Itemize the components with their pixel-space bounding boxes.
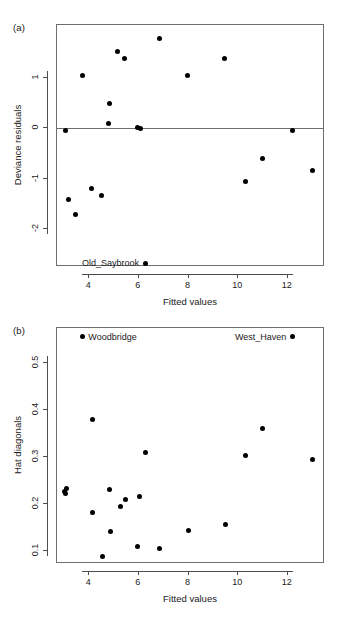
data-point — [66, 197, 71, 202]
data-point — [143, 261, 148, 266]
panel-b-y-axis-title: Hat diagonals — [12, 416, 23, 474]
data-point — [106, 121, 111, 126]
y-axis-tick-label: 0.1 — [30, 544, 40, 557]
data-point — [243, 453, 248, 458]
x-axis-tick — [138, 274, 139, 278]
y-axis-tick — [43, 178, 47, 179]
x-axis-tick-label: 4 — [86, 577, 91, 587]
x-axis-tick — [237, 571, 238, 575]
x-axis-tick-label: 6 — [135, 280, 140, 290]
data-point — [107, 101, 112, 106]
panel-b-plot-area: WoodbridgeWest_Haven — [57, 328, 323, 562]
y-axis-tick — [43, 503, 47, 504]
panel-a-plot-box: Old_Saybrook — [56, 24, 324, 266]
x-axis-tick-label: 10 — [232, 577, 242, 587]
panel-a-tag: (a) — [13, 22, 25, 33]
data-point — [138, 126, 143, 131]
data-point — [64, 486, 69, 491]
panel-a-y-axis — [47, 71, 48, 234]
panel-a-plot-area: Old_Saybrook — [57, 25, 323, 265]
data-point — [222, 56, 227, 61]
data-point — [63, 128, 68, 133]
data-point — [157, 546, 162, 551]
data-point — [122, 56, 127, 61]
x-axis-tick — [237, 274, 238, 278]
data-point — [90, 417, 95, 422]
data-point — [260, 426, 265, 431]
data-point — [143, 450, 148, 455]
y-axis-tick-label: 0.2 — [30, 497, 40, 510]
data-point — [135, 544, 140, 549]
y-axis-tick-label: 0.5 — [30, 356, 40, 369]
data-point — [185, 73, 190, 78]
panel-b-y-axis — [47, 356, 48, 556]
x-axis-tick — [188, 571, 189, 575]
x-axis-tick-label: 12 — [282, 280, 292, 290]
y-axis-tick-label: -2 — [30, 224, 40, 232]
data-point — [73, 212, 78, 217]
y-axis-tick-label: 0 — [30, 125, 40, 130]
data-point — [80, 73, 85, 78]
data-point — [100, 554, 105, 559]
panel-b-plot-box: WoodbridgeWest_Haven — [56, 327, 324, 563]
x-axis-tick — [138, 571, 139, 575]
data-point — [80, 334, 85, 339]
y-axis-tick-label: -1 — [30, 174, 40, 182]
panel-b-hat-diagonals: (b) WoodbridgeWest_Haven Fitted values H… — [0, 311, 340, 622]
data-point — [90, 510, 95, 515]
data-point — [108, 529, 113, 534]
data-point — [118, 504, 123, 509]
data-point — [310, 168, 315, 173]
y-axis-tick — [43, 409, 47, 410]
data-point — [157, 36, 162, 41]
data-point — [123, 497, 128, 502]
panel-a-x-axis-title: Fitted values — [163, 296, 217, 307]
data-point — [115, 49, 120, 54]
point-label: Old_Saybrook — [82, 258, 139, 268]
y-axis-tick — [43, 77, 47, 78]
y-axis-tick — [43, 456, 47, 457]
data-point — [186, 528, 191, 533]
x-axis-tick-label: 4 — [86, 280, 91, 290]
data-point — [63, 491, 68, 496]
x-axis-tick-label: 8 — [185, 577, 190, 587]
y-axis-tick-label: 1 — [30, 74, 40, 79]
diagnostic-figure: (a) Old_Saybrook Fitted values Deviance … — [0, 0, 340, 622]
data-point — [290, 334, 295, 339]
x-axis-tick — [287, 274, 288, 278]
panel-a-y-axis-title: Deviance residuals — [12, 105, 23, 185]
data-point — [243, 179, 248, 184]
x-axis-tick — [188, 274, 189, 278]
panel-b-x-axis-title: Fitted values — [163, 593, 217, 604]
point-label: West_Haven — [235, 332, 286, 342]
panel-b-tag: (b) — [13, 325, 25, 336]
y-axis-tick-label: 0.3 — [30, 450, 40, 463]
y-axis-tick — [43, 127, 47, 128]
data-point — [99, 193, 104, 198]
y-axis-tick — [43, 550, 47, 551]
point-label: Woodbridge — [88, 332, 136, 342]
data-point — [260, 156, 265, 161]
panel-a-reference-line — [57, 128, 323, 129]
panel-a-deviance-residuals: (a) Old_Saybrook Fitted values Deviance … — [0, 0, 340, 311]
data-point — [290, 128, 295, 133]
y-axis-tick — [43, 228, 47, 229]
x-axis-tick — [88, 571, 89, 575]
x-axis-tick-label: 6 — [135, 577, 140, 587]
data-point — [89, 186, 94, 191]
x-axis-tick-label: 10 — [232, 280, 242, 290]
x-axis-tick — [287, 571, 288, 575]
data-point — [310, 457, 315, 462]
x-axis-tick-label: 8 — [185, 280, 190, 290]
data-point — [107, 487, 112, 492]
x-axis-tick — [88, 274, 89, 278]
y-axis-tick-label: 0.4 — [30, 403, 40, 416]
y-axis-tick — [43, 362, 47, 363]
data-point — [137, 494, 142, 499]
data-point — [223, 522, 228, 527]
x-axis-tick-label: 12 — [282, 577, 292, 587]
